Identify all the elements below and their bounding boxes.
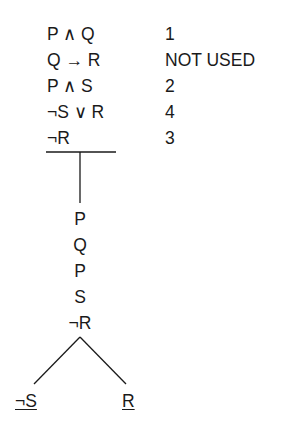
tree-lines [0,0,283,430]
left-branch-line [34,337,80,384]
trunk-node: P [60,261,100,281]
trunk-node: P [60,209,100,229]
trunk-node: S [60,287,100,307]
trunk-node: ¬R [60,313,100,333]
right-branch-line [80,337,126,384]
right-branch-leaf-closed: R [122,391,135,411]
trunk-node: Q [60,235,100,255]
left-branch-leaf-closed: ¬S [15,391,37,411]
